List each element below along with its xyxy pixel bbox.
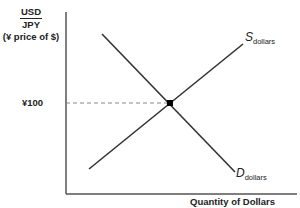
supply-letter: S	[245, 30, 253, 44]
price-tick-label: ¥100	[22, 97, 43, 108]
supply-subscript: dollars	[253, 37, 275, 46]
x-axis-label: Quantity of Dollars	[190, 196, 275, 207]
y-axis-subtitle: (¥ price of $)	[3, 31, 60, 42]
supply-label: Sdollars	[245, 30, 275, 46]
y-axis-denominator: JPY	[22, 19, 40, 30]
supply-demand-diagram: USD JPY (¥ price of $) ¥100 Sdollars Ddo…	[0, 0, 300, 208]
equilibrium-point	[167, 100, 173, 106]
y-axis-numerator: USD	[20, 6, 42, 19]
demand-letter: D	[236, 166, 245, 180]
y-axis-label: USD JPY (¥ price of $)	[0, 6, 62, 43]
demand-subscript: dollars	[245, 173, 267, 182]
demand-label: Ddollars	[236, 166, 267, 182]
supply-curve	[89, 44, 243, 169]
